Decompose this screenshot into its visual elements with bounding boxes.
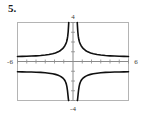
graph-svg: -6 6 4 -4 xyxy=(0,10,144,119)
plot-container: -6 6 4 -4 xyxy=(0,10,144,119)
y-axis-bottom-label: -4 xyxy=(70,105,76,113)
x-axis-left-label: -6 xyxy=(7,58,13,66)
y-axis-top-label: 4 xyxy=(71,13,75,21)
figure-root: 5. -6 6 4 -4 xyxy=(0,0,144,119)
x-axis-right-label: 6 xyxy=(134,58,138,66)
